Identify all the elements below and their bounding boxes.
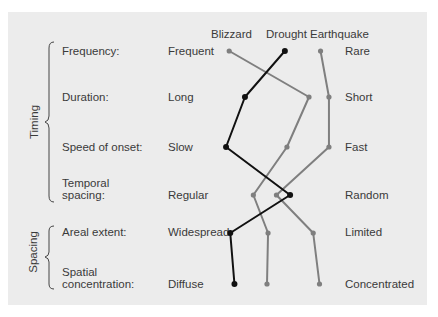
series-line-earthquake <box>276 51 329 284</box>
data-point-drought <box>282 48 288 54</box>
data-point-drought <box>223 144 229 150</box>
data-point-blizzard <box>227 48 232 53</box>
spacing-brace <box>45 226 54 289</box>
data-point-drought <box>227 230 233 236</box>
series-line-drought <box>226 51 290 284</box>
timing-brace <box>45 42 54 202</box>
data-point-drought <box>231 281 237 287</box>
data-point-blizzard <box>306 94 311 99</box>
data-point-earthquake <box>311 230 316 235</box>
data-point-drought <box>242 94 248 100</box>
data-point-earthquake <box>326 94 331 99</box>
data-point-blizzard <box>264 281 269 286</box>
data-point-blizzard <box>284 144 289 149</box>
data-point-earthquake <box>326 144 331 149</box>
data-point-earthquake <box>317 281 322 286</box>
data-point-drought <box>287 192 293 198</box>
chart-plot <box>0 0 438 317</box>
data-point-earthquake <box>274 192 279 197</box>
data-point-earthquake <box>318 48 323 53</box>
data-point-blizzard <box>265 230 270 235</box>
series-line-blizzard <box>229 51 309 284</box>
data-point-blizzard <box>251 192 256 197</box>
